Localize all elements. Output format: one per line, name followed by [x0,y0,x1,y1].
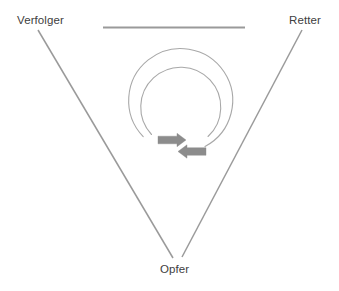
counterclockwise-arrow [178,145,206,158]
spiral-outer-arc [129,49,233,147]
left-diagonal-line [38,30,173,258]
spiral-inner-arc [141,67,221,136]
vertex-label-opfer: Opfer [160,263,189,276]
diagram-canvas: Verfolger Retter Opfer [0,0,339,291]
right-diagonal-line [182,30,302,257]
drama-triangle-figure [0,0,339,291]
vertex-label-retter: Retter [289,14,321,27]
clockwise-arrow [158,133,186,146]
vertex-label-verfolger: Verfolger [17,14,64,27]
